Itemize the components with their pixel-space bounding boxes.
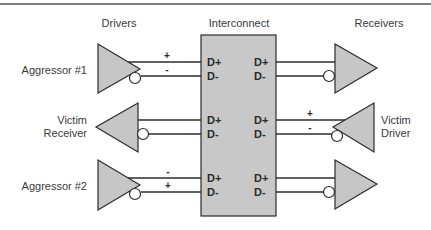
sign-a2-bottom: +: [165, 180, 171, 191]
aggressor-1-label: Aggressor #1: [22, 64, 87, 76]
inverter-bubble-icon: [130, 73, 141, 84]
header-drivers: Drivers: [102, 17, 137, 29]
pin-right-dn: D-: [254, 186, 266, 198]
pin-left-dn: D-: [207, 186, 219, 198]
sign-v-neg: -: [308, 122, 311, 133]
pin-left-dp: D+: [207, 56, 221, 68]
pin-left-dp: D+: [207, 114, 221, 126]
aggressor-2-label: Aggressor #2: [22, 180, 87, 192]
pin-right-dn: D-: [254, 128, 266, 140]
inverter-bubble-icon: [324, 187, 335, 198]
pin-left-dn: D-: [207, 128, 219, 140]
inverter-bubble-icon: [130, 189, 141, 200]
inverter-bubble-icon: [332, 131, 343, 142]
inverter-bubble-icon: [138, 129, 149, 140]
inverter-bubble-icon: [324, 71, 335, 82]
sign-a1-neg: -: [165, 64, 168, 75]
aggressor-2-receiver-icon: [335, 160, 377, 209]
pin-left-dn: D-: [207, 70, 219, 82]
victim-driver-label-2: Driver: [381, 127, 411, 139]
victim-receiver-icon: [96, 103, 138, 152]
header-interconnect: Interconnect: [209, 17, 270, 29]
pin-left-dp: D+: [207, 172, 221, 184]
victim-driver-icon: [333, 103, 374, 152]
sign-a1-pos: +: [164, 50, 170, 61]
aggressor-1-receiver-icon: [335, 44, 377, 93]
row-aggressor-2: Aggressor #2 - + D+ D- D+ D-: [22, 160, 377, 210]
header-receivers: Receivers: [355, 17, 404, 29]
sign-a2-top: -: [166, 166, 169, 177]
pin-right-dn: D-: [254, 70, 266, 82]
pin-right-dp: D+: [254, 172, 268, 184]
aggressor-1-driver-icon: [98, 44, 140, 93]
victim-receiver-label-2: Receiver: [44, 127, 88, 139]
aggressor-2-driver-icon: [98, 160, 140, 210]
victim-receiver-label-1: Victim: [57, 114, 87, 126]
sign-v-pos: +: [307, 108, 313, 119]
pin-right-dp: D+: [254, 56, 268, 68]
pin-right-dp: D+: [254, 114, 268, 126]
victim-driver-label-1: Victim: [381, 114, 411, 126]
crosstalk-diagram: Drivers Interconnect Receivers Aggressor…: [0, 0, 431, 230]
row-aggressor-1: Aggressor #1 + - D+ D- D+ D-: [22, 44, 377, 93]
